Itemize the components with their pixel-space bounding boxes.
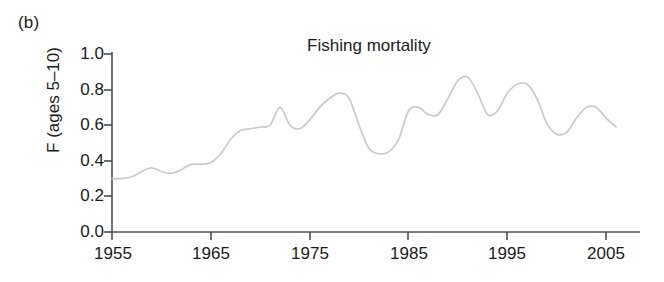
axes: [104, 52, 640, 240]
y-axis-ticks: [104, 54, 112, 232]
plot-area: [0, 0, 664, 282]
x-axis-ticks: [112, 232, 606, 240]
data-line-fishing-mortality: [112, 76, 616, 178]
chart-figure: (b) Fishing mortality F (ages 5–10) 0.0 …: [0, 0, 664, 282]
